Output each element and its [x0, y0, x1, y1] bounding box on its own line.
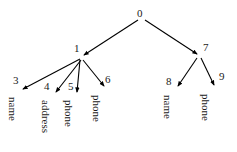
tree-edge	[145, 20, 197, 54]
tree-edges-canvas	[0, 0, 237, 152]
leaf-word-6: phone	[91, 95, 102, 122]
leaf-word-5: phone	[63, 100, 74, 127]
node-label-7: 7	[203, 42, 209, 53]
leaf-word-4: address	[40, 100, 51, 133]
node-label-8: 8	[166, 76, 172, 87]
node-label-6: 6	[105, 74, 111, 85]
leaf-word-9: phone	[200, 94, 211, 121]
tree-edge	[201, 58, 214, 85]
tree-diagram: 017345689 nameaddressphonephonenamephone	[0, 0, 237, 152]
node-label-4: 4	[44, 81, 50, 92]
node-label-3: 3	[13, 75, 19, 86]
node-label-1: 1	[74, 43, 80, 54]
leaf-word-3: name	[7, 97, 18, 121]
node-label-9: 9	[219, 71, 225, 82]
node-label-0: 0	[137, 8, 143, 19]
edge-group	[23, 20, 214, 92]
node-label-5: 5	[68, 81, 74, 92]
tree-edge	[83, 60, 104, 86]
leaf-word-8: name	[162, 95, 173, 119]
tree-edge	[84, 20, 138, 55]
tree-edge	[178, 58, 197, 86]
